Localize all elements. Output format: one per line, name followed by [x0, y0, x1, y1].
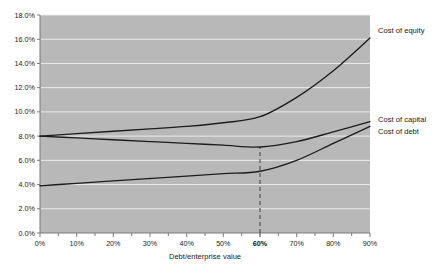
x-tick-label-60%: 60% — [253, 239, 268, 248]
x-tick-label-50%: 50% — [216, 239, 231, 248]
x-tick-label-0%: 0% — [35, 239, 46, 248]
y-tick-label-10.0%: 10.0% — [15, 107, 36, 116]
x-tick-label-20%: 20% — [106, 239, 121, 248]
x-tick-label-70%: 70% — [289, 239, 304, 248]
y-tick-label-0.0%: 0.0% — [19, 229, 36, 238]
y-tick-label-6.0%: 6.0% — [19, 156, 36, 165]
x-tick-label-80%: 80% — [326, 239, 341, 248]
chart-container: 0.0%2.0%4.0%6.0%8.0%10.0%12.0%14.0%16.0%… — [0, 0, 444, 277]
x-tick-label-90%: 90% — [363, 239, 378, 248]
y-tick-label-2.0%: 2.0% — [19, 204, 36, 213]
x-tick-label-10%: 10% — [69, 239, 84, 248]
x-tick-label-40%: 40% — [179, 239, 194, 248]
y-tick-label-18.0%: 18.0% — [15, 11, 36, 20]
series-label-cost-of-debt: Cost of debt — [378, 127, 420, 136]
series-label-cost-of-capital: Cost of capital — [378, 115, 426, 124]
plot-area-background — [40, 15, 370, 233]
y-tick-label-4.0%: 4.0% — [19, 180, 36, 189]
y-tick-label-12.0%: 12.0% — [15, 83, 36, 92]
x-axis-title: Debt/enterprise value — [169, 252, 241, 261]
series-label-cost-of-equity: Cost of equity — [378, 26, 425, 35]
cost-of-capital-line-chart: 0.0%2.0%4.0%6.0%8.0%10.0%12.0%14.0%16.0%… — [0, 0, 444, 277]
y-tick-label-14.0%: 14.0% — [15, 59, 36, 68]
y-tick-label-8.0%: 8.0% — [19, 132, 36, 141]
x-tick-label-30%: 30% — [143, 239, 158, 248]
y-tick-label-16.0%: 16.0% — [15, 35, 36, 44]
